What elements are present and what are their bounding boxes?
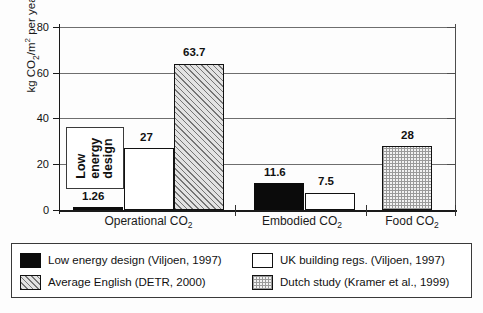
legend-item-uk-building-regs[interactable]: UK building regs. (Viljoen, 1997) (252, 253, 445, 268)
x-axis-line (59, 210, 457, 212)
bar-food-dutch-study[interactable] (382, 146, 432, 210)
xaxis-category-food: Food CO2 (369, 214, 455, 230)
bar-value-label-11-6: 11.6 (264, 166, 286, 178)
legend-swatch-dots-icon (252, 275, 273, 290)
ytick-label-20: 20 (25, 158, 49, 170)
bar-value-label-63-7: 63.7 (183, 46, 205, 58)
bar-chart-figure: kg CO2/m2 per year 80 60 40 20 0 1.26 27… (0, 0, 483, 313)
bar-operational-average-english[interactable] (174, 64, 224, 210)
legend-label-low-energy-design: Low energy design (Viljoen, 1997) (48, 254, 222, 266)
xaxis-category-operational: Operational CO2 (86, 214, 211, 230)
annotation-line-3: design (102, 138, 116, 179)
legend-row-2: Average English (DETR, 2000) Dutch study… (20, 271, 465, 293)
bar-value-label-1-26: 1.26 (82, 190, 104, 202)
legend-swatch-open-icon (252, 253, 273, 268)
legend-item-average-english[interactable]: Average English (DETR, 2000) (20, 275, 252, 290)
annotation-line-2: energy (88, 138, 102, 179)
chart-legend: Low energy design (Viljoen, 1997) UK bui… (11, 243, 472, 298)
legend-label-dutch-study: Dutch study (Kramer et al., 1999) (280, 276, 449, 288)
xtick-separator-3 (455, 205, 456, 216)
low-energy-design-annotation-box: Low energy design (66, 127, 124, 189)
legend-swatch-solid-icon (20, 253, 41, 268)
bar-value-label-27: 27 (140, 131, 153, 143)
right-spine (455, 24, 456, 212)
bar-value-label-7-5: 7.5 (318, 175, 334, 187)
bar-value-label-28: 28 (401, 129, 414, 141)
gridline-80 (59, 27, 456, 28)
legend-label-uk-building-regs: UK building regs. (Viljoen, 1997) (280, 254, 445, 266)
ytick-label-40: 40 (25, 112, 49, 124)
gridline-60 (59, 73, 456, 74)
y-axis-line (59, 24, 60, 214)
legend-item-low-energy-design[interactable]: Low energy design (Viljoen, 1997) (20, 253, 252, 268)
legend-swatch-hatch-icon (20, 275, 41, 290)
legend-row-1: Low energy design (Viljoen, 1997) UK bui… (20, 249, 465, 271)
ytick-label-80: 80 (25, 21, 49, 33)
ytick-label-60: 60 (25, 67, 49, 79)
bar-embodied-low-energy[interactable] (254, 183, 304, 210)
legend-label-average-english: Average English (DETR, 2000) (48, 276, 206, 288)
xaxis-category-embodied: Embodied CO2 (242, 214, 362, 230)
bar-operational-uk-regs[interactable] (124, 148, 174, 210)
y-axis-title: kg CO2/m2 per year (23, 0, 40, 123)
gridline-40 (59, 118, 456, 119)
annotation-line-1: Low (75, 138, 89, 179)
xtick-separator-1 (235, 205, 236, 216)
bar-operational-low-energy[interactable] (73, 207, 123, 210)
legend-item-dutch-study[interactable]: Dutch study (Kramer et al., 1999) (252, 275, 449, 290)
ytick-label-0: 0 (25, 204, 49, 216)
xtick-separator-2 (366, 205, 367, 216)
bar-embodied-uk-regs[interactable] (305, 193, 355, 210)
low-energy-design-annotation-text: Low energy design (75, 138, 116, 179)
